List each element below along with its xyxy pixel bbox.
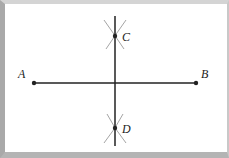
- label-d: D: [121, 122, 131, 136]
- label-a: A: [17, 67, 26, 81]
- point-d: [113, 126, 117, 130]
- label-c: C: [122, 30, 131, 44]
- point-b: [194, 81, 198, 85]
- point-c: [113, 34, 117, 38]
- label-b: B: [201, 67, 209, 81]
- diagram-canvas: A B C D: [0, 0, 229, 158]
- point-a: [32, 81, 36, 85]
